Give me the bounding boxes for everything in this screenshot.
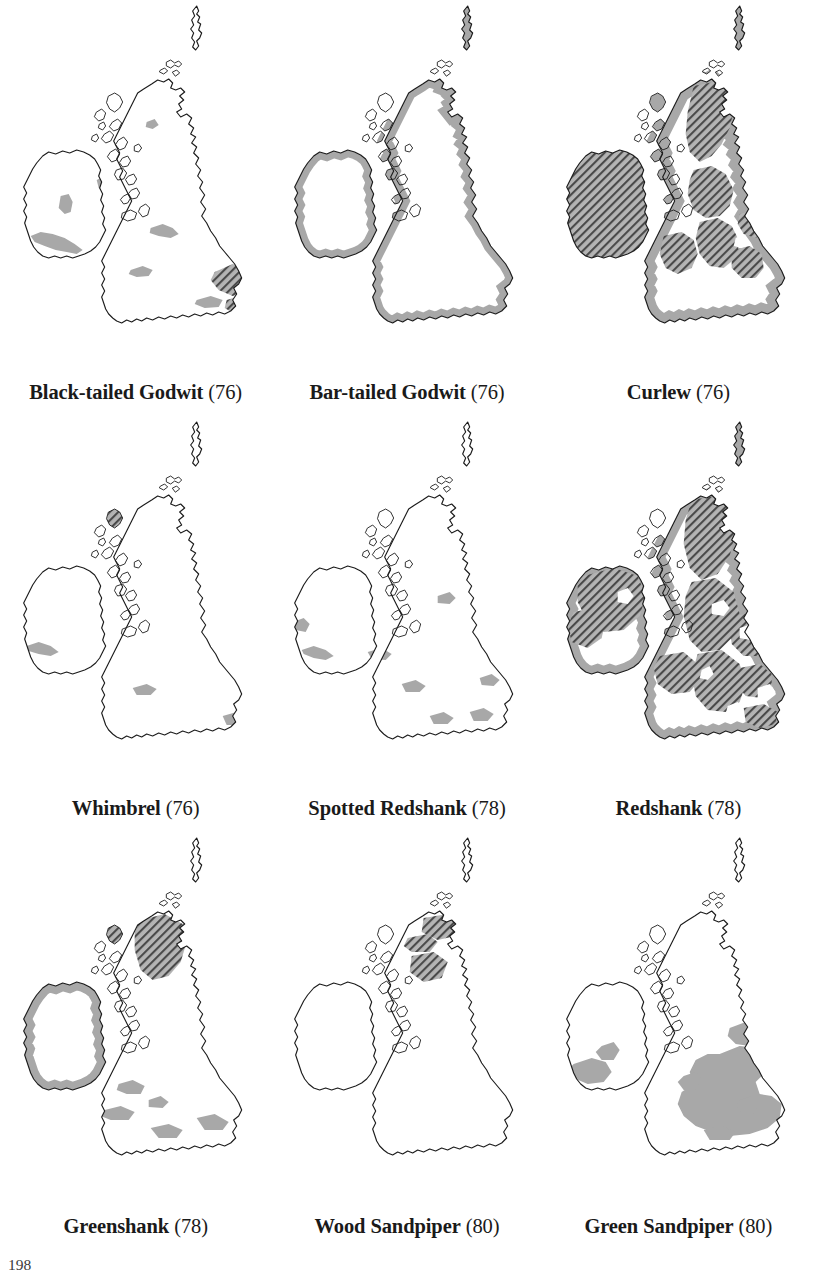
species-page-ref: (78)	[472, 797, 506, 819]
map-figure-wood-sandpiper	[271, 832, 542, 1214]
map-figure-bar-tailed-godwit	[271, 0, 542, 382]
map-cell-spotted-redshank: Spotted Redshank (78)	[271, 416, 542, 832]
species-name: Green Sandpiper	[584, 1215, 733, 1237]
map-green-sandpiper	[543, 832, 814, 1214]
map-greenshank	[0, 832, 271, 1214]
map-caption-greenshank: Greenshank (78)	[0, 1216, 271, 1238]
map-caption-whimbrel: Whimbrel (76)	[0, 798, 271, 820]
grey-range-fill	[27, 642, 247, 725]
species-name: Greenshank	[63, 1215, 169, 1237]
map-figure-spotted-redshank	[271, 416, 542, 798]
map-caption-bar-tailed-godwit: Bar-tailed Godwit (76)	[271, 382, 542, 404]
grey-coastal-band	[24, 982, 106, 1090]
grey-range-fill	[101, 1080, 229, 1138]
species-page-ref: (76)	[696, 381, 730, 403]
map-figure-black-tailed-godwit	[0, 0, 271, 382]
map-caption-black-tailed-godwit: Black-tailed Godwit (76)	[0, 382, 271, 404]
map-spotted-redshank	[271, 416, 542, 798]
species-page-ref: (78)	[174, 1215, 208, 1237]
map-figure-green-sandpiper	[543, 832, 814, 1214]
map-caption-redshank: Redshank (78)	[543, 798, 814, 820]
coastline-outline	[295, 422, 513, 739]
map-cell-greenshank: Greenshank (78)	[0, 832, 271, 1248]
species-page-ref: (80)	[738, 1215, 772, 1237]
species-name: Redshank	[615, 797, 702, 819]
map-figure-curlew	[543, 0, 814, 382]
coastline-outline	[295, 6, 513, 323]
map-curlew	[543, 0, 814, 382]
species-page-ref: (80)	[466, 1215, 500, 1237]
species-page-ref: (76)	[208, 381, 242, 403]
map-figure-whimbrel	[0, 416, 271, 798]
map-redshank	[543, 416, 814, 798]
map-whimbrel	[0, 416, 271, 798]
species-page-ref: (78)	[707, 797, 741, 819]
map-cell-whimbrel: Whimbrel (76)	[0, 416, 271, 832]
grey-range-fill	[294, 592, 504, 724]
map-cell-bar-tailed-godwit: Bar-tailed Godwit (76)	[271, 0, 542, 416]
map-cell-redshank: Redshank (78)	[543, 416, 814, 832]
map-cell-green-sandpiper: Green Sandpiper (80)	[543, 832, 814, 1248]
map-figure-greenshank	[0, 832, 271, 1214]
species-page-ref: (76)	[166, 797, 200, 819]
map-figure-redshank	[543, 416, 814, 798]
map-caption-wood-sandpiper: Wood Sandpiper (80)	[271, 1216, 542, 1238]
map-caption-spotted-redshank: Spotted Redshank (78)	[271, 798, 542, 820]
species-name: Spotted Redshank	[308, 797, 466, 819]
species-name: Curlew	[627, 381, 691, 403]
coastline-outline	[295, 838, 513, 1155]
map-cell-black-tailed-godwit: Black-tailed Godwit (76)	[0, 0, 271, 416]
grey-range-fill	[31, 119, 223, 308]
map-grid: Black-tailed Godwit (76)Bar-tailed Godwi…	[0, 0, 814, 1248]
map-cell-wood-sandpiper: Wood Sandpiper (80)	[271, 832, 542, 1248]
species-name: Black-tailed Godwit	[29, 381, 203, 403]
map-bar-tailed-godwit	[271, 0, 542, 382]
coastline-outline	[24, 838, 242, 1155]
coastline-outline	[24, 422, 242, 739]
grey-coastal-band	[295, 6, 513, 323]
map-wood-sandpiper	[271, 832, 542, 1214]
grey-range-fill	[567, 1022, 781, 1140]
species-name: Wood Sandpiper	[315, 1215, 461, 1237]
page-folio: 198	[8, 1256, 31, 1274]
species-page-ref: (76)	[471, 381, 505, 403]
species-name: Bar-tailed Godwit	[309, 381, 465, 403]
map-cell-curlew: Curlew (76)	[543, 0, 814, 416]
map-caption-green-sandpiper: Green Sandpiper (80)	[543, 1216, 814, 1238]
map-caption-curlew: Curlew (76)	[543, 382, 814, 404]
species-name: Whimbrel	[72, 797, 161, 819]
map-black-tailed-godwit	[0, 0, 271, 382]
